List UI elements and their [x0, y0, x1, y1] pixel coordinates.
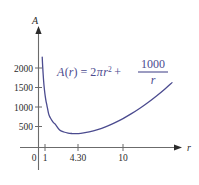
y-tick-label-1000: 1000: [14, 103, 33, 113]
y-tick-label-500: 500: [19, 122, 34, 132]
chart-figure: A r 2000 1500 1000 500 0 1 4.30 10 A(r: [0, 0, 199, 185]
y-tick-label-2000: 2000: [14, 64, 33, 74]
x-tick-label-10: 10: [118, 153, 128, 163]
formula-plus: +: [114, 65, 121, 79]
x-tick-label-0: 0: [32, 153, 37, 163]
y-tick-label-1500: 1500: [14, 83, 33, 93]
formula-fn-a: A: [56, 65, 65, 79]
formula-fraction-denominator: r: [151, 73, 156, 87]
formula-exponent: 2: [108, 65, 112, 74]
formula-equals: =: [81, 65, 88, 79]
formula-fraction-numerator: 1000: [141, 57, 165, 71]
formula-coefficient: 2: [90, 65, 96, 79]
x-tick-label-1: 1: [43, 153, 48, 163]
y-axis-label: A: [31, 15, 39, 26]
formula-paren-close: ): [74, 65, 78, 79]
x-axis-label: r: [187, 142, 191, 153]
x-tick-label-4-30: 4.30: [70, 153, 87, 163]
